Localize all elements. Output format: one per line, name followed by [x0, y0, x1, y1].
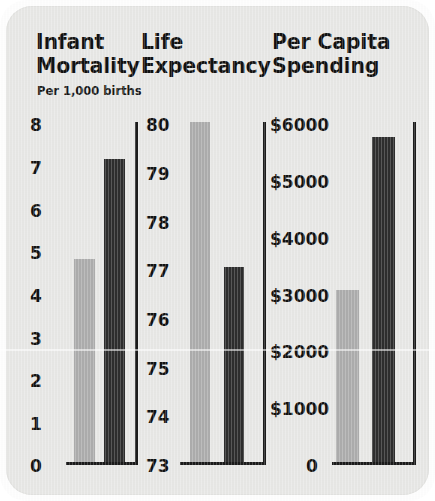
y-axis-tick-label: 3 — [30, 331, 42, 348]
chart-titles: Infant Mortality Life Expectancy Per Cap… — [0, 0, 435, 110]
panel-subtitle-units: Per 1,000 births — [37, 84, 142, 98]
y-axis-tick-label: 0 — [306, 458, 318, 475]
y-axis-tick-label: $3000 — [270, 288, 329, 305]
bar-dark-per-capita-spending — [372, 137, 395, 462]
y-axis-tick-label: $5000 — [270, 174, 329, 191]
y-axis-line-right — [413, 122, 416, 465]
y-axis-line-right — [263, 122, 266, 465]
bar-light-life-expectancy — [190, 122, 210, 462]
plot-area — [180, 125, 266, 465]
panel-title-line1: Per Capita — [272, 30, 390, 54]
panel-title-line2: Expectancy — [141, 54, 271, 78]
bar-light-per-capita-spending — [336, 290, 359, 462]
plot-area — [66, 125, 138, 465]
panel-title-infant-mortality: Infant Mortality — [36, 30, 140, 78]
y-axis-tick-label: 2 — [30, 373, 42, 390]
plot-area — [332, 125, 416, 465]
y-axis-tick-label: 6 — [30, 203, 42, 220]
y-axis-tick-label: $2000 — [270, 344, 329, 361]
y-axis-tick-label: 1 — [30, 416, 42, 433]
y-axis-tick-label: 0 — [30, 458, 42, 475]
y-axis-tick-label: $4000 — [270, 231, 329, 248]
y-axis-tick-label: $6000 — [270, 117, 329, 134]
chart-panel-life-expectancy: 80 79 78 77 76 75 74 73 — [140, 112, 270, 478]
y-axis-tick-label: $1000 — [270, 401, 329, 418]
chart-figure: Infant Mortality Life Expectancy Per Cap… — [0, 0, 435, 501]
panel-title-life-expectancy: Life Expectancy — [141, 30, 271, 78]
y-axis-tick-label: 7 — [30, 160, 42, 177]
chart-panel-per-capita-spending: $6000 $5000 $4000 $3000 $2000 $1000 0 — [270, 112, 418, 478]
panel-title-per-capita-spending: Per Capita Spending — [272, 30, 390, 78]
y-axis-tick-label: 78 — [146, 215, 170, 232]
x-axis-line — [66, 462, 138, 465]
y-axis-tick-label: 75 — [146, 361, 170, 378]
y-axis-tick-label: 8 — [30, 117, 42, 134]
y-axis-tick-label: 77 — [146, 263, 170, 280]
y-axis-tick-label: 79 — [146, 166, 170, 183]
bar-dark-infant-mortality — [104, 159, 125, 462]
panel-title-line2: Mortality — [36, 54, 140, 78]
chart-panel-infant-mortality: 8 7 6 5 4 3 2 1 0 — [28, 112, 140, 478]
y-axis-tick-label: 5 — [30, 245, 42, 262]
panel-title-line2: Spending — [272, 54, 390, 78]
x-axis-line — [332, 462, 416, 465]
panel-title-line1: Life — [141, 30, 271, 54]
bar-light-infant-mortality — [74, 259, 95, 462]
x-axis-line — [180, 462, 266, 465]
y-axis-line-right — [135, 122, 138, 465]
y-axis-tick-label: 4 — [30, 288, 42, 305]
y-axis-tick-label: 74 — [146, 409, 170, 426]
bar-dark-life-expectancy — [224, 267, 244, 462]
panel-title-line1: Infant — [36, 30, 140, 54]
y-axis-tick-label: 73 — [146, 458, 170, 475]
y-axis-tick-label: 76 — [146, 312, 170, 329]
y-axis-tick-label: 80 — [146, 117, 170, 134]
